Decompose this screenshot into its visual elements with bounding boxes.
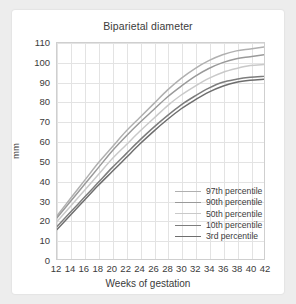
legend-label: 97th percentile — [206, 187, 262, 196]
legend-label: 50th percentile — [206, 210, 262, 219]
x-tick-label: 26 — [142, 263, 166, 274]
y-tick-label: 30 — [20, 195, 50, 206]
y-tick-label: 20 — [20, 215, 50, 226]
x-tick-label: 18 — [86, 263, 110, 274]
x-tick-label: 38 — [225, 263, 249, 274]
legend-item: 10th percentile — [175, 220, 267, 231]
legend-item: 50th percentile — [175, 208, 267, 219]
legend-color-swatch — [175, 236, 201, 237]
y-tick-label: 10 — [20, 235, 50, 246]
legend-label: 10th percentile — [206, 221, 262, 230]
legend: 97th percentile90th percentile50th perce… — [175, 186, 267, 242]
x-tick-label: 20 — [100, 263, 124, 274]
chart-card: Biparietal diameter 01020304050607080901… — [12, 10, 284, 294]
legend-item: 97th percentile — [175, 186, 267, 197]
legend-label: 90th percentile — [206, 198, 262, 207]
x-tick-label: 36 — [211, 263, 235, 274]
legend-item: 3rd percentile — [175, 231, 267, 242]
legend-color-swatch — [175, 213, 201, 214]
x-tick-label: 16 — [72, 263, 96, 274]
x-tick-label: 12 — [44, 263, 68, 274]
x-tick-label: 32 — [183, 263, 207, 274]
y-axis-label: mm — [10, 143, 21, 159]
legend-color-swatch — [175, 202, 201, 203]
y-tick-label: 100 — [20, 56, 50, 67]
y-tick-label: 60 — [20, 136, 50, 147]
x-tick-label: 14 — [58, 263, 82, 274]
y-tick-label: 70 — [20, 116, 50, 127]
x-tick-label: 30 — [169, 263, 193, 274]
x-axis-label: Weeks of gestation — [12, 278, 284, 289]
y-tick-label: 80 — [20, 96, 50, 107]
y-tick-label: 40 — [20, 175, 50, 186]
legend-color-swatch — [175, 191, 201, 192]
x-tick-label: 34 — [197, 263, 221, 274]
y-tick-label: 90 — [20, 76, 50, 87]
legend-color-swatch — [175, 225, 201, 226]
legend-item: 90th percentile — [175, 197, 267, 208]
y-tick-label: 0 — [20, 255, 50, 266]
x-tick-label: 24 — [128, 263, 152, 274]
x-tick-label: 28 — [155, 263, 179, 274]
chart-title: Biparietal diameter — [12, 20, 284, 32]
legend-label: 3rd percentile — [206, 232, 258, 241]
x-tick-label: 40 — [239, 263, 263, 274]
x-tick-label: 22 — [114, 263, 138, 274]
y-tick-label: 110 — [20, 37, 50, 48]
x-tick-label: 42 — [253, 263, 277, 274]
y-tick-label: 50 — [20, 155, 50, 166]
